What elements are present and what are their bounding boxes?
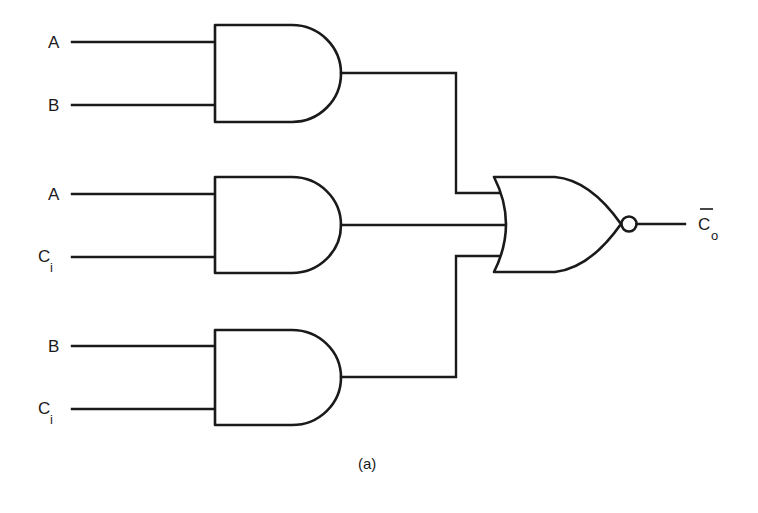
and-gate-3: B C i [38, 330, 341, 427]
input-label-a-2: A [48, 185, 60, 204]
input-label-sub-i-2: i [50, 260, 53, 275]
input-label-c-2: C [38, 247, 50, 266]
and-gate-2-shape [215, 177, 341, 273]
input-label-b-1: B [48, 96, 59, 115]
wire-and3-to-nor [341, 256, 500, 377]
and-gate-3-shape [215, 330, 341, 425]
input-label-b-3: B [48, 337, 59, 356]
and-gate-1-shape [215, 25, 341, 122]
inversion-bubble [622, 217, 637, 232]
and-gate-1: A B [48, 25, 341, 122]
output-label-c: C [698, 215, 710, 234]
nor-gate-shape [494, 177, 621, 272]
and-gate-2: A C i [38, 177, 341, 275]
figure-caption: (a) [358, 455, 376, 472]
wire-and1-to-nor [341, 73, 500, 193]
output-label: C o [698, 209, 718, 243]
output-label-sub-o: o [711, 228, 718, 243]
interconnect-wires [341, 73, 509, 377]
input-label-sub-i-3: i [50, 412, 53, 427]
logic-circuit-diagram: A B A C i B C i C o (a) [0, 0, 758, 513]
input-label-a-1: A [48, 33, 60, 52]
nor-gate [494, 177, 685, 272]
input-label-c-3: C [38, 399, 50, 418]
